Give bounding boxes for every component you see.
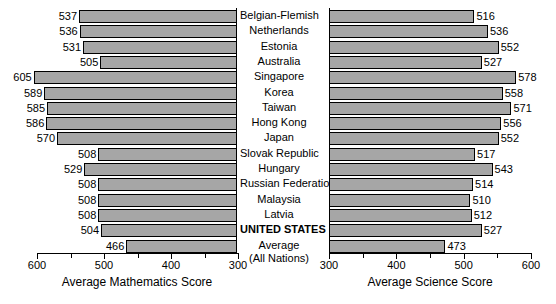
bar: 527 <box>329 224 482 237</box>
category-label: Malaysia <box>240 193 318 206</box>
bar: 531 <box>83 41 237 54</box>
minor-tick <box>205 253 206 258</box>
bar-value-label: 556 <box>503 117 521 130</box>
bar-row: 516 <box>329 10 531 23</box>
bar-row: 517 <box>329 148 531 161</box>
category-label: Korea <box>240 86 318 99</box>
bar-row: 512 <box>329 209 531 222</box>
minor-tick <box>430 253 431 258</box>
science-axis-title: Average Science Score <box>367 275 492 290</box>
bar: 505 <box>100 56 237 69</box>
minor-tick <box>138 253 139 258</box>
bar: 466 <box>126 240 237 253</box>
bar-value-label: 529 <box>64 163 82 176</box>
bar-row: 605 <box>37 71 237 84</box>
bar: 605 <box>34 71 237 84</box>
mathematics-axis-title: Average Mathematics Score <box>62 275 213 290</box>
bar-row: 473 <box>329 240 531 253</box>
bar-row: 536 <box>37 25 237 38</box>
bar-value-label: 543 <box>495 163 513 176</box>
bar: 556 <box>329 117 501 130</box>
category-label-column: Belgian-FlemishNetherlandsEstoniaAustral… <box>240 8 318 253</box>
bar: 589 <box>44 87 237 100</box>
bar: 552 <box>329 41 499 54</box>
bar-row: 578 <box>329 71 531 84</box>
bar-value-label: 571 <box>513 102 531 115</box>
category-label: Hong Kong <box>240 116 318 129</box>
bar-row: 508 <box>37 148 237 161</box>
bar-value-label: 570 <box>37 132 55 145</box>
bar-value-label: 605 <box>13 71 31 84</box>
bar-row: 552 <box>329 41 531 54</box>
bar: 571 <box>329 102 511 115</box>
bar: 578 <box>329 71 516 84</box>
bar-row: 529 <box>37 163 237 176</box>
bar: 558 <box>329 87 503 100</box>
tick-label: 400 <box>162 259 180 272</box>
bar: 508 <box>98 148 237 161</box>
bar: 508 <box>98 209 237 222</box>
bar: 570 <box>57 132 237 145</box>
category-label: Singapore <box>240 70 318 83</box>
science-plot-area: 5165365525275785585715565525175435145105… <box>329 8 531 253</box>
category-sublabel: (All Nations) <box>240 252 318 265</box>
category-label: Netherlands <box>240 24 318 37</box>
bar-row: 510 <box>329 194 531 207</box>
bar-row: 527 <box>329 56 531 69</box>
bar-row: 556 <box>329 117 531 130</box>
bar-row: 571 <box>329 102 531 115</box>
bar-row: 589 <box>37 87 237 100</box>
bar: 586 <box>46 117 237 130</box>
bar-value-label: 578 <box>518 71 536 84</box>
bar-row: 558 <box>329 87 531 100</box>
bar-value-label: 527 <box>484 56 502 69</box>
science-panel: 5165365525275785585715565525175435145105… <box>318 0 556 304</box>
minor-tick <box>363 253 364 258</box>
bar-value-label: 589 <box>24 87 42 100</box>
bar: 510 <box>329 194 470 207</box>
bar-value-label: 531 <box>63 41 81 54</box>
tick-label: 500 <box>95 259 113 272</box>
category-label: Taiwan <box>240 101 318 114</box>
category-label: Average(All Nations) <box>240 239 318 265</box>
bar: 517 <box>329 148 475 161</box>
bar: 529 <box>84 163 237 176</box>
category-label: Slovak Republic <box>240 147 318 160</box>
bar: 504 <box>101 224 237 237</box>
bar-row: 543 <box>329 163 531 176</box>
bar-value-label: 516 <box>476 10 494 23</box>
mathematics-panel: 5375365315056055895855865705085295085085… <box>0 0 240 304</box>
bar-value-label: 510 <box>472 194 490 207</box>
category-label: Belgian-Flemish <box>240 9 318 22</box>
tick-label: 500 <box>454 259 472 272</box>
bar: 514 <box>329 178 473 191</box>
minor-tick <box>71 253 72 258</box>
bar-value-label: 517 <box>477 148 495 161</box>
bar-value-label: 508 <box>78 194 96 207</box>
bar-value-label: 527 <box>484 224 502 237</box>
bar-row: 536 <box>329 25 531 38</box>
bar: 543 <box>329 163 493 176</box>
tick-label: 400 <box>387 259 405 272</box>
bar: 508 <box>98 194 237 207</box>
bar-value-label: 585 <box>27 102 45 115</box>
bar-value-label: 504 <box>81 224 99 237</box>
category-label: Japan <box>240 131 318 144</box>
bar-row: 586 <box>37 117 237 130</box>
tick-label: 600 <box>522 259 540 272</box>
bar-value-label: 466 <box>106 240 124 253</box>
category-label: Estonia <box>240 40 318 53</box>
bar-row: 505 <box>37 56 237 69</box>
paired-bar-chart: 5375365315056055895855865705085295085085… <box>0 0 556 304</box>
bar-row: 508 <box>37 194 237 207</box>
bar-value-label: 508 <box>78 178 96 191</box>
tick-label: 600 <box>28 259 46 272</box>
bar-row: 527 <box>329 224 531 237</box>
bar-row: 504 <box>37 224 237 237</box>
bar-row: 537 <box>37 10 237 23</box>
bar: 536 <box>80 25 237 38</box>
bar-value-label: 514 <box>475 178 493 191</box>
bar-value-label: 558 <box>505 87 523 100</box>
bar: 536 <box>329 25 488 38</box>
bar-row: 508 <box>37 209 237 222</box>
